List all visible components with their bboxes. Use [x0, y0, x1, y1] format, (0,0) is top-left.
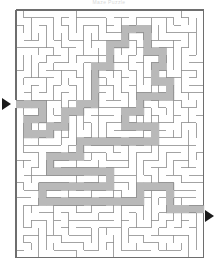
entrance-arrow-icon — [2, 98, 11, 110]
maze-graphic — [0, 0, 218, 272]
solution-path-layer — [16, 25, 204, 213]
solution-link — [189, 205, 205, 213]
maze-page: Maze Puzzle — [0, 0, 218, 272]
exit-arrow-icon — [205, 210, 214, 222]
maze-container — [0, 0, 218, 272]
